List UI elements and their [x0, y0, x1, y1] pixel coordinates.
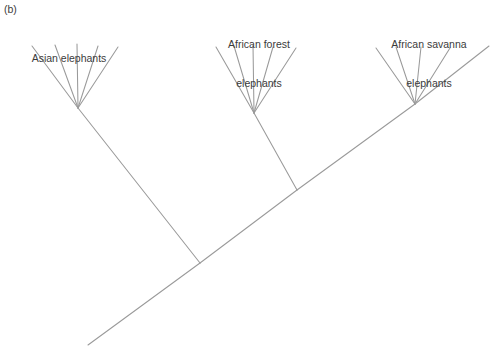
clade-label-african-forest-line2: elephants — [199, 77, 319, 90]
clade-label-asian: Asian elephants — [9, 26, 129, 91]
clade-label-african-savanna-line1: African savanna — [364, 38, 494, 51]
basal-node-to-asian-clade — [78, 108, 200, 263]
phylogenetic-tree-figure: (b) Asian elephants African forest eleph… — [0, 0, 498, 349]
basal-node-to-african-node — [200, 190, 297, 263]
clade-label-african-savanna-line2: elephants — [364, 77, 494, 90]
root-to-basal-node — [88, 263, 200, 345]
african-node-to-savanna-clade — [297, 104, 415, 190]
clade-label-african-forest: African forest elephants — [199, 12, 319, 116]
clade-label-asian-line1: Asian elephants — [9, 52, 129, 65]
clade-label-african-savanna: African savanna elephants — [364, 12, 494, 116]
clade-label-african-forest-line1: African forest — [199, 38, 319, 51]
african-node-to-forest-clade — [254, 113, 297, 190]
